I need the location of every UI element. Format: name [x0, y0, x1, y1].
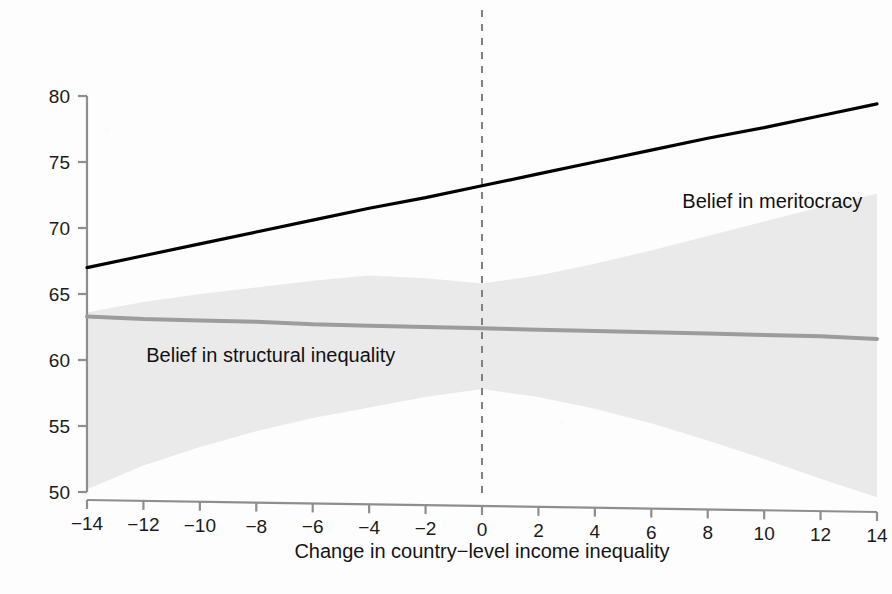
- chart-figure: 80757065605550 −14−12−10−8−6−4−202468101…: [0, 0, 892, 594]
- x-axis-tick-label: −2: [415, 519, 437, 538]
- x-axis-title: Change in country−level income inequalit…: [294, 540, 669, 563]
- y-axis-tick-label: 55: [20, 417, 70, 436]
- x-axis-tick-label: 10: [754, 524, 775, 543]
- series-annotation-structural-inequality: Belief in structural inequality: [146, 344, 395, 367]
- series-annotation-meritocracy: Belief in meritocracy: [682, 190, 862, 213]
- y-axis-tick-label: 65: [20, 285, 70, 304]
- x-axis-tick-label: 2: [533, 521, 544, 540]
- y-axis-tick-label: 50: [20, 483, 70, 502]
- x-axis-tick-label: 0: [477, 520, 488, 539]
- x-axis-tick-label: 6: [646, 523, 657, 542]
- x-axis-tick-label: −10: [184, 516, 216, 535]
- x-axis-tick-label: −14: [71, 514, 103, 533]
- y-axis-tick-label: 80: [20, 87, 70, 106]
- y-axis-tick-label: 60: [20, 351, 70, 370]
- x-axis-tick-label: −4: [358, 518, 380, 537]
- y-axis-tick-label: 75: [20, 153, 70, 172]
- x-axis-tick-label: −6: [302, 517, 324, 536]
- chart-plot-area: [0, 0, 892, 594]
- x-axis-tick-label: 12: [810, 525, 831, 544]
- y-axis-ticks: [78, 96, 87, 492]
- x-axis-tick-label: 8: [702, 523, 713, 542]
- x-axis-tick-label: −8: [245, 517, 267, 536]
- x-axis-tick-label: 14: [866, 526, 887, 545]
- x-axis-tick-label: 4: [590, 522, 601, 541]
- x-axis-tick-label: −12: [127, 515, 159, 534]
- y-axis-tick-label: 70: [20, 219, 70, 238]
